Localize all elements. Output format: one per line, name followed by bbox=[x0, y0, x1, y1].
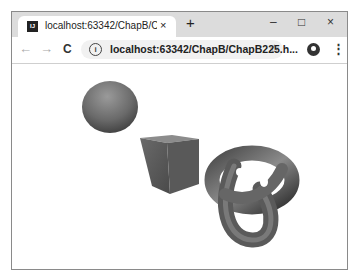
close-window-button[interactable]: × bbox=[327, 15, 334, 29]
menu-icon[interactable]: ⋮ bbox=[332, 41, 345, 56]
back-button[interactable]: ← bbox=[19, 41, 32, 56]
forward-button[interactable]: → bbox=[40, 41, 53, 56]
browser-toolbar: ← → C i localhost:63342/ChapB/ChapB225.h… bbox=[12, 37, 347, 64]
3d-scene bbox=[12, 64, 348, 270]
new-tab-button[interactable]: + bbox=[186, 15, 195, 31]
cube bbox=[140, 135, 199, 194]
webgl-canvas[interactable] bbox=[12, 64, 347, 270]
favicon-icon: IJ bbox=[27, 21, 38, 32]
tab-title: localhost:63342/ChapB/ChapB225.html bbox=[45, 20, 157, 31]
sphere bbox=[82, 81, 138, 133]
bookmark-star-icon[interactable]: ☆ bbox=[269, 42, 280, 56]
account-icon[interactable] bbox=[307, 43, 320, 56]
torus-knot bbox=[212, 153, 292, 240]
reload-button[interactable]: C bbox=[63, 42, 72, 56]
info-icon[interactable]: i bbox=[89, 43, 102, 56]
close-tab-icon[interactable]: × bbox=[160, 19, 166, 31]
browser-tab[interactable]: IJ localhost:63342/ChapB/ChapB225.html × bbox=[18, 16, 176, 37]
address-bar[interactable]: i localhost:63342/ChapB/ChapB225.h... bbox=[81, 40, 283, 59]
tab-strip: IJ localhost:63342/ChapB/ChapB225.html ×… bbox=[12, 12, 347, 37]
maximize-button[interactable]: □ bbox=[298, 15, 305, 29]
browser-window: IJ localhost:63342/ChapB/ChapB225.html ×… bbox=[11, 11, 348, 270]
minimize-button[interactable]: – bbox=[270, 15, 277, 29]
